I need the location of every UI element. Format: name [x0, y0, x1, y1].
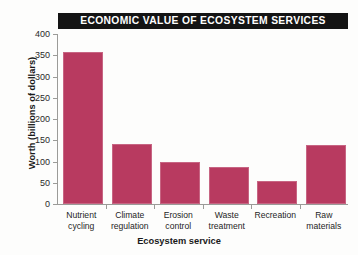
chart-figure: ECONOMIC VALUE OF ECOSYSTEM SERVICES Wor… — [0, 0, 358, 255]
x-category-label-line: materials — [296, 221, 353, 232]
y-tick-mark — [53, 140, 58, 141]
plot-area: 050100150200250300350400 — [57, 34, 348, 205]
y-tick-label: 300 — [35, 72, 50, 82]
y-tick-mark — [53, 183, 58, 184]
y-tick-label: 150 — [35, 135, 50, 145]
y-tick-mark — [53, 55, 58, 56]
y-tick-label: 350 — [35, 50, 50, 60]
y-tick-label: 200 — [35, 114, 50, 124]
x-axis-title: Ecosystem service — [0, 236, 358, 246]
bar-fill — [209, 167, 249, 204]
bar-fill — [63, 52, 103, 204]
bar-fill — [112, 144, 152, 204]
x-tick-mark — [203, 205, 204, 209]
bar — [257, 181, 297, 204]
x-category-label: Rawmaterials — [296, 210, 353, 231]
bar — [160, 162, 200, 204]
y-tick-mark — [53, 119, 58, 120]
y-tick-mark — [53, 98, 58, 99]
y-tick-label: 50 — [40, 178, 50, 188]
x-category-label-line: treatment — [199, 221, 256, 232]
y-tick-mark — [53, 204, 58, 205]
bar — [209, 167, 249, 204]
bar-fill — [306, 145, 346, 204]
x-tick-mark — [106, 205, 107, 209]
y-tick-label: 100 — [35, 157, 50, 167]
y-tick-mark — [53, 34, 58, 35]
x-category-label-line: Raw — [296, 210, 353, 221]
x-tick-mark — [154, 205, 155, 209]
y-tick-label: 0 — [45, 199, 50, 209]
bar — [112, 144, 152, 204]
y-tick-mark — [53, 77, 58, 78]
y-tick-label: 250 — [35, 93, 50, 103]
x-tick-mark — [300, 205, 301, 209]
y-tick-label: 400 — [35, 29, 50, 39]
chart-title-banner: ECONOMIC VALUE OF ECOSYSTEM SERVICES — [58, 13, 348, 29]
x-tick-mark — [251, 205, 252, 209]
bar — [306, 145, 346, 204]
bar-fill — [257, 181, 297, 204]
y-tick-mark — [53, 162, 58, 163]
chart-title: ECONOMIC VALUE OF ECOSYSTEM SERVICES — [80, 16, 326, 26]
bar — [63, 52, 103, 204]
bar-fill — [160, 162, 200, 204]
